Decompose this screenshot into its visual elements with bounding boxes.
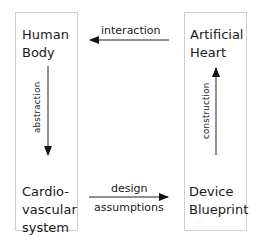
node-device-blueprint-line1: Device [189,183,248,201]
edge-label-construction: construction [201,83,211,139]
node-human-body-line2: Body [22,44,69,62]
node-cardiovascular-line3: system [22,219,77,237]
node-artificial-heart: Artificial Heart [190,26,243,62]
edge-label-assumptions: assumptions [94,201,164,214]
edge-label-abstraction: abstraction [32,82,42,133]
node-cardiovascular-line1: Cardio- [22,183,77,201]
node-cardiovascular-system: Cardio- vascular system [22,183,77,237]
edge-label-design: design [111,182,148,195]
node-device-blueprint-line2: Blueprint [189,201,248,219]
node-artificial-heart-line2: Heart [190,44,243,62]
node-artificial-heart-line1: Artificial [190,26,243,44]
node-device-blueprint: Device Blueprint [189,183,248,219]
node-human-body-line1: Human [22,26,69,44]
node-cardiovascular-line2: vascular [22,201,77,219]
node-human-body: Human Body [22,26,69,62]
edge-label-interaction: interaction [101,24,161,37]
